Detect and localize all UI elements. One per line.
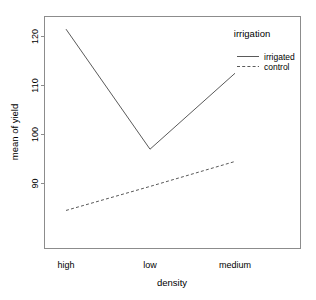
legend-entry-control[interactable]: control [237,62,290,72]
series-line-control [66,161,235,210]
legend-label-control: control [264,62,290,72]
legend-entry-irrigated[interactable]: irrigated [237,52,295,62]
y-tick-label-100: 100 [30,127,40,142]
legend-label-irrigated: irrigated [264,52,295,62]
x-tick-label-medium: medium [219,260,251,270]
x-axis-title: density [157,277,187,288]
y-axis-tick-labels: 120 110 100 90 [30,29,40,189]
legend-title: irrigation [234,28,270,39]
y-tick-label-110: 110 [30,78,40,92]
plot-frame [45,17,301,249]
series-line-irrigated [66,29,235,149]
legend: irrigation irrigated control [234,28,295,72]
interaction-plot-figure: 120 110 100 90 mean of yield high low me… [0,0,316,300]
x-axis-tick-labels: high low medium [57,260,251,270]
x-tick-label-high: high [57,260,74,270]
plot-canvas: 120 110 100 90 mean of yield high low me… [0,0,316,300]
y-tick-label-120: 120 [30,29,40,44]
y-tick-label-90: 90 [30,178,40,188]
y-axis-ticks [41,37,45,184]
x-tick-label-low: low [143,260,157,270]
y-axis-title: mean of yield [9,104,20,161]
